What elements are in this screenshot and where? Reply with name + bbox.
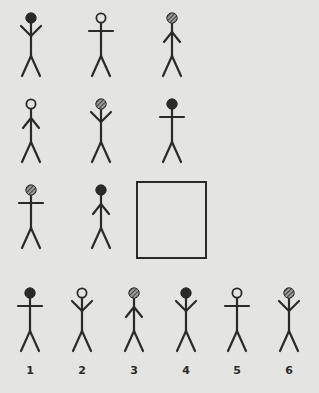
matrix-figure-r1-c1 (11, 10, 51, 82)
option-label-4[interactable]: 4 (176, 364, 196, 377)
stick-figure-icon (11, 10, 51, 82)
option-label-3[interactable]: 3 (124, 364, 144, 377)
option-figure-2[interactable] (62, 285, 102, 357)
matrix-figure-r2-c2 (81, 96, 121, 168)
option-figure-3[interactable] (114, 285, 154, 357)
option-figure-5[interactable] (217, 285, 257, 357)
stick-figure-icon (11, 182, 51, 254)
stick-figure-icon (217, 285, 257, 357)
matrix-figure-r1-c3 (152, 10, 192, 82)
stick-figure-icon (152, 10, 192, 82)
option-label-5[interactable]: 5 (227, 364, 247, 377)
option-label-6[interactable]: 6 (279, 364, 299, 377)
option-figure-1[interactable] (10, 285, 50, 357)
stick-figure-icon (10, 285, 50, 357)
option-label-2[interactable]: 2 (72, 364, 92, 377)
stick-figure-icon (81, 182, 121, 254)
stick-figure-icon (269, 285, 309, 357)
stick-figure-icon (166, 285, 206, 357)
option-label-1[interactable]: 1 (20, 364, 40, 377)
missing-answer-box (136, 181, 207, 259)
stick-figure-icon (152, 96, 192, 168)
stick-figure-icon (81, 10, 121, 82)
matrix-figure-r3-c2 (81, 182, 121, 254)
stick-figure-icon (11, 96, 51, 168)
option-figure-6[interactable] (269, 285, 309, 357)
matrix-figure-r1-c2 (81, 10, 121, 82)
stick-figure-icon (114, 285, 154, 357)
matrix-figure-r2-c1 (11, 96, 51, 168)
puzzle-canvas: 1 2 3 4 5 (0, 0, 319, 393)
stick-figure-icon (81, 96, 121, 168)
matrix-figure-r2-c3 (152, 96, 192, 168)
option-figure-4[interactable] (166, 285, 206, 357)
stick-figure-icon (62, 285, 102, 357)
matrix-figure-r3-c1 (11, 182, 51, 254)
